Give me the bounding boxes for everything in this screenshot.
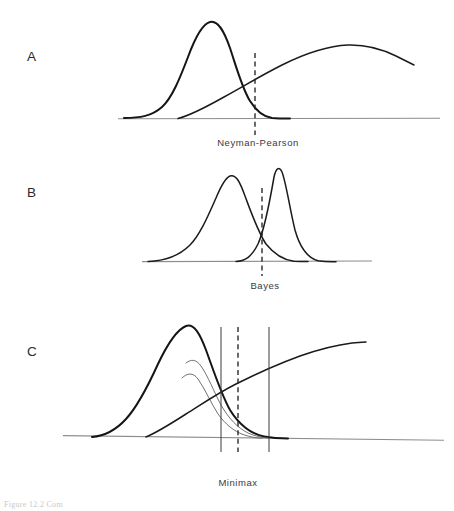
panel-c-bold-peak-density (92, 326, 288, 439)
panel-b-wide-left-density (148, 176, 308, 262)
panel-letter-b: B (27, 186, 37, 200)
panel-a-broad-flat-density (178, 45, 414, 119)
criterion-label-neyman-pearson: Neyman-Pearson (217, 138, 299, 148)
panel-b-axis (142, 261, 372, 262)
panel-c-plot (63, 326, 444, 452)
panel-letter-a: A (27, 50, 37, 64)
panel-b-plot (142, 169, 372, 276)
figure-caption: Figure 12.2 Com (4, 500, 234, 509)
panel-c-axis (63, 436, 444, 441)
panel-a-plot (118, 22, 440, 135)
panel-b-narrow-right-density (236, 169, 336, 262)
criterion-label-minimax: Minimax (218, 478, 257, 488)
figure-canvas (0, 0, 454, 511)
panel-c-inner-thin-density-1 (186, 360, 268, 438)
panel-c-rising-saturating-curve (146, 342, 366, 437)
figure-container: A B C Neyman-Pearson Bayes Minimax Figur… (0, 0, 454, 511)
panel-a-narrow-peak-density (124, 22, 290, 119)
criterion-label-bayes: Bayes (250, 281, 279, 291)
panel-letter-c: C (27, 345, 37, 359)
